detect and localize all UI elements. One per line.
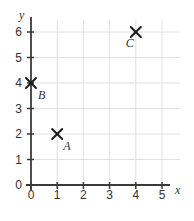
x-tick-label: 3 bbox=[106, 188, 113, 202]
y-tick-label: 3 bbox=[15, 102, 22, 116]
y-tick-label: 6 bbox=[15, 25, 22, 39]
x-axis-label: x bbox=[174, 183, 181, 197]
point-label-A: A bbox=[62, 139, 71, 153]
x-tick-label: 5 bbox=[159, 188, 166, 202]
point-label-B: B bbox=[38, 88, 46, 102]
y-tick-label: 1 bbox=[15, 153, 22, 167]
scatter-plot-canvas: 0123450123456xyABC bbox=[0, 0, 194, 221]
y-tick-label: 2 bbox=[15, 127, 22, 141]
x-tick-label: 0 bbox=[28, 188, 35, 202]
x-tick-label: 2 bbox=[80, 188, 87, 202]
scatter-chart-figure: 0123450123456xyABC bbox=[0, 0, 194, 221]
y-tick-label: 5 bbox=[15, 51, 22, 65]
y-tick-label: 0 bbox=[15, 178, 22, 192]
y-axis-label: y bbox=[18, 8, 25, 22]
y-tick-label: 4 bbox=[15, 76, 22, 90]
point-label-C: C bbox=[126, 36, 135, 50]
x-tick-label: 1 bbox=[54, 188, 61, 202]
x-tick-label: 4 bbox=[132, 188, 139, 202]
